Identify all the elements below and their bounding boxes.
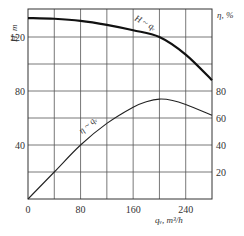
head-curve-label: H ~ qᵥ bbox=[132, 12, 158, 32]
tick-label: 60 bbox=[216, 113, 226, 124]
x-axis-ticks: 080160240 bbox=[26, 204, 194, 215]
y-right-axis-ticks: 80604020 bbox=[216, 86, 226, 178]
y-left-axis-ticks: 1208040 bbox=[10, 32, 25, 151]
efficiency-curve bbox=[28, 99, 212, 199]
tick-label: 20 bbox=[216, 167, 226, 178]
tick-label: 80 bbox=[216, 86, 226, 97]
tick-label: 80 bbox=[76, 204, 86, 215]
tick-label: 40 bbox=[15, 140, 25, 151]
y-right-axis-label: η, % bbox=[217, 10, 233, 20]
x-axis-label: qᵥ, m³/h bbox=[155, 215, 183, 225]
pump-performance-chart: 080160240 1208040 80604020 H, m η, % qᵥ,… bbox=[0, 0, 244, 236]
y-left-axis-label: H, m bbox=[9, 24, 19, 43]
tick-label: 0 bbox=[26, 204, 31, 215]
tick-label: 160 bbox=[126, 204, 141, 215]
tick-label: 240 bbox=[178, 204, 193, 215]
head-curve bbox=[28, 18, 212, 80]
tick-label: 80 bbox=[15, 86, 25, 97]
tick-label: 40 bbox=[216, 140, 226, 151]
